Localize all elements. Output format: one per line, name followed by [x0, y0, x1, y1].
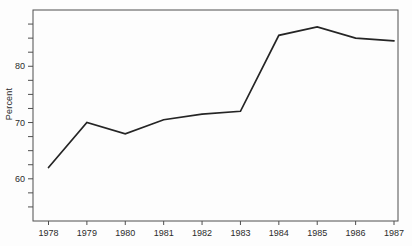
- y-tick-label: 70: [15, 118, 25, 128]
- plot-frame: [33, 10, 398, 221]
- x-tick-label: 1980: [115, 228, 135, 238]
- data-line: [49, 27, 395, 168]
- x-tick-label: 1985: [307, 228, 327, 238]
- x-tick-label: 1978: [38, 228, 58, 238]
- x-tick-label: 1982: [192, 228, 212, 238]
- line-chart: 607080 197819791980198119821983198419851…: [0, 0, 412, 246]
- x-tick-label: 1987: [384, 228, 404, 238]
- x-tick-label: 1984: [269, 228, 289, 238]
- chart-figure: 607080 197819791980198119821983198419851…: [0, 0, 412, 246]
- x-tick-label: 1981: [154, 228, 174, 238]
- x-tick-label: 1986: [346, 228, 366, 238]
- y-tick-label: 80: [15, 61, 25, 71]
- x-tick-label: 1979: [77, 228, 97, 238]
- y-tick-label: 60: [15, 174, 25, 184]
- x-tick-label: 1983: [230, 228, 250, 238]
- x-axis: 1978197919801981198219831984198519861987: [38, 221, 404, 238]
- y-axis-title: Percent: [4, 87, 14, 120]
- y-axis: 607080: [15, 24, 33, 207]
